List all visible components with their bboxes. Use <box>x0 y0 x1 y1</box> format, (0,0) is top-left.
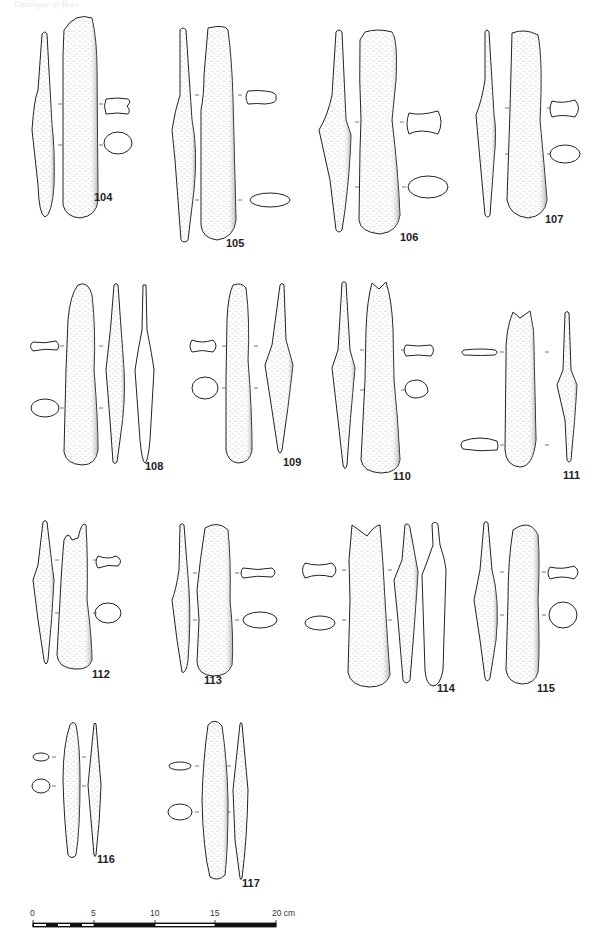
scale-tick-0: 0 <box>30 908 35 918</box>
artifact-plate <box>0 0 610 951</box>
scale-bar <box>33 920 276 927</box>
artifact-label-107: 107 <box>545 213 563 225</box>
artifact-label-116: 116 <box>97 853 115 865</box>
artifact-label-112: 112 <box>92 668 110 680</box>
artifact-113 <box>172 524 277 677</box>
artifact-label-114: 114 <box>437 682 455 694</box>
artifact-115 <box>474 522 578 685</box>
artifact-label-110: 110 <box>393 470 411 482</box>
artifact-114 <box>303 522 447 687</box>
artifact-label-113: 113 <box>204 674 222 686</box>
scale-tick-20: 20 cm <box>272 908 295 918</box>
artifact-109 <box>190 284 293 464</box>
artifact-label-117: 117 <box>242 877 260 889</box>
artifact-label-115: 115 <box>537 682 555 694</box>
artifact-label-111: 111 <box>563 469 580 481</box>
artifact-label-104: 104 <box>94 191 112 203</box>
artifact-107 <box>476 30 580 218</box>
artifact-104 <box>32 17 132 219</box>
artifact-116 <box>32 723 101 858</box>
artifact-105 <box>172 26 290 242</box>
artifact-label-108: 108 <box>145 460 163 472</box>
artifact-108 <box>31 284 155 466</box>
scale-tick-10: 10 <box>150 908 159 918</box>
artifact-117 <box>168 721 248 879</box>
artifact-106 <box>319 30 448 234</box>
scale-tick-15: 15 <box>210 908 219 918</box>
artifact-112 <box>33 521 121 670</box>
artifact-label-109: 109 <box>283 456 301 468</box>
artifact-110 <box>332 282 434 474</box>
scale-tick-5: 5 <box>91 908 96 918</box>
artifact-label-106: 106 <box>400 231 418 243</box>
artifact-111 <box>461 311 577 467</box>
artifact-label-105: 105 <box>226 237 244 249</box>
